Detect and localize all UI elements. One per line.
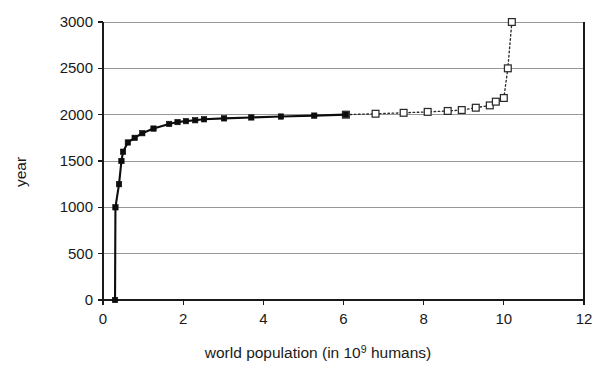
y-tick-label-3000: 3000 [60, 13, 93, 30]
data-point-projection-11 [508, 19, 515, 26]
data-point-projection-4 [444, 108, 451, 115]
x-axis-title: world population (in 109 humans) [204, 343, 431, 361]
chart-svg: 050010001500200025003000 024681012 year … [0, 0, 615, 377]
data-point-projection-6 [472, 104, 479, 111]
data-point-historical-4 [120, 149, 125, 154]
y-tick-label-500: 500 [68, 245, 93, 262]
x-axis-title-before: world population (in 10 [204, 344, 361, 361]
x-tick-label-0: 0 [99, 310, 107, 327]
data-point-historical-17 [312, 113, 317, 118]
data-point-historical-14 [221, 116, 226, 121]
y-axis [98, 22, 103, 300]
data-point-historical-0 [112, 297, 117, 302]
y-tick-label-1000: 1000 [60, 198, 93, 215]
x-tick-label-6: 6 [339, 310, 347, 327]
y-tick-labels: 050010001500200025003000 [60, 13, 93, 308]
data-point-projection-5 [458, 107, 465, 114]
data-point-historical-6 [132, 135, 137, 140]
data-point-historical-10 [175, 119, 180, 124]
x-tick-label-2: 2 [179, 310, 187, 327]
data-point-projection-2 [400, 109, 407, 116]
data-point-projection-10 [504, 65, 511, 72]
data-point-projection-8 [492, 98, 499, 105]
data-point-historical-2 [116, 181, 121, 186]
data-point-historical-13 [201, 117, 206, 122]
data-point-historical-5 [125, 140, 130, 145]
population-chart: 050010001500200025003000 024681012 year … [0, 0, 615, 377]
x-axis [103, 300, 584, 305]
data-point-historical-9 [166, 121, 171, 126]
y-tick-label-2500: 2500 [60, 59, 93, 76]
data-point-historical-12 [192, 118, 197, 123]
data-point-projection-3 [424, 108, 431, 115]
y-tick-label-0: 0 [85, 291, 93, 308]
x-tick-labels: 024681012 [99, 310, 593, 327]
x-tick-label-8: 8 [419, 310, 427, 327]
x-tick-label-4: 4 [259, 310, 267, 327]
y-axis-title: year [12, 157, 29, 187]
data-point-historical-3 [119, 158, 124, 163]
data-point-projection-1 [372, 110, 379, 117]
x-axis-title-after: humans) [367, 344, 432, 361]
y-tick-label-2000: 2000 [60, 106, 93, 123]
data-point-historical-18 [343, 112, 348, 117]
data-point-historical-1 [113, 205, 118, 210]
data-point-projection-9 [500, 95, 507, 102]
x-tick-label-12: 12 [576, 310, 593, 327]
data-point-historical-8 [151, 126, 156, 131]
data-point-historical-15 [249, 115, 254, 120]
y-tick-label-1500: 1500 [60, 152, 93, 169]
data-point-historical-7 [140, 131, 145, 136]
data-point-historical-16 [278, 114, 283, 119]
x-tick-label-10: 10 [495, 310, 512, 327]
gridlines [103, 22, 584, 254]
data-point-historical-11 [183, 118, 188, 123]
